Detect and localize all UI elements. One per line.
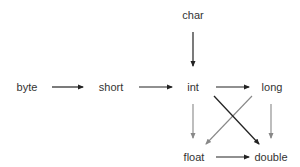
node-short: short: [99, 81, 123, 93]
node-char: char: [182, 9, 203, 21]
edge-int-double: [214, 96, 259, 144]
edge-long-float: [206, 96, 252, 144]
node-float: float: [184, 151, 205, 163]
node-double: double: [254, 151, 287, 163]
node-int: int: [187, 81, 199, 93]
node-byte: byte: [17, 81, 38, 93]
node-long: long: [262, 81, 283, 93]
conversion-edges: [0, 0, 300, 167]
